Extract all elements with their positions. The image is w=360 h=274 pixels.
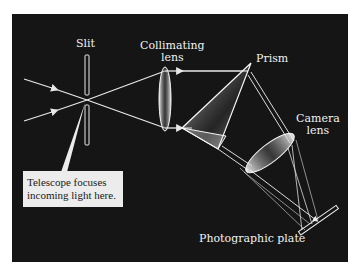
callout-pointer [61, 103, 85, 172]
camera-lens-label-line2: lens [296, 125, 340, 137]
slit-label: Slit [76, 38, 95, 50]
incoming-rays [24, 71, 165, 128]
prism-label: Prism [256, 53, 288, 65]
collimating-lens-label: Collimating lens [140, 40, 205, 64]
camera-lens [241, 127, 299, 178]
callout-line2: incoming light here. [27, 189, 123, 202]
callout-line1: Telescope focuses [27, 176, 123, 189]
collimating-lens-label-line2: lens [140, 52, 205, 64]
telescope-callout: Telescope focuses incoming light here. [23, 171, 123, 207]
collimating-lens [159, 67, 171, 131]
photographic-plate-label: Photographic plate [199, 233, 305, 245]
camera-lens-label: Camera lens [296, 113, 340, 137]
